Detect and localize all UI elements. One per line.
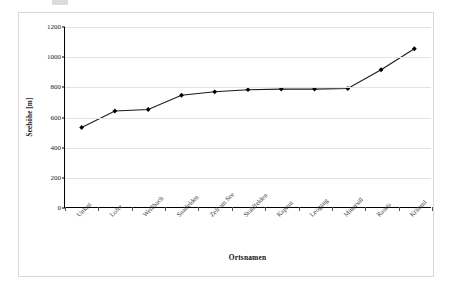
y-tick-mark	[62, 87, 65, 88]
plot-area: 020040060080010001200UnkenLoferWeißbachS…	[64, 27, 431, 208]
y-tick-mark	[62, 27, 65, 28]
y-gridline	[65, 178, 431, 179]
data-point-marker	[113, 109, 118, 114]
y-gridline	[65, 148, 431, 149]
data-point-marker	[179, 93, 184, 98]
y-tick-label: 600	[51, 114, 62, 122]
y-tick-mark	[62, 117, 65, 118]
data-point-marker	[212, 89, 217, 94]
x-tick-mark	[198, 207, 199, 211]
y-tick-label: 400	[51, 144, 62, 152]
y-gridline	[65, 57, 431, 58]
x-tick-mark	[98, 207, 99, 211]
y-gridline	[65, 118, 431, 119]
y-gridline	[65, 27, 431, 28]
x-tick-mark	[65, 207, 66, 211]
data-point-marker	[146, 107, 151, 112]
y-tick-label: 1200	[47, 23, 61, 31]
x-tick-mark	[232, 207, 233, 211]
y-gridline	[65, 87, 431, 88]
y-tick-mark	[62, 147, 65, 148]
y-tick-label: 0	[58, 204, 62, 212]
chart-frame: Seehöhe [m] 020040060080010001200UnkenLo…	[18, 12, 434, 277]
y-tick-label: 1000	[47, 53, 61, 61]
y-tick-mark	[62, 57, 65, 58]
x-tick-mark	[432, 207, 433, 211]
x-tick-mark	[165, 207, 166, 211]
x-tick-mark	[399, 207, 400, 211]
y-tick-label: 200	[51, 174, 62, 182]
plot-wrapper: Seehöhe [m] 020040060080010001200UnkenLo…	[19, 13, 433, 276]
x-tick-mark	[365, 207, 366, 211]
chart-page: { "page": { "background_color": "#ffffff…	[0, 0, 454, 288]
y-tick-label: 800	[51, 83, 62, 91]
x-tick-mark	[299, 207, 300, 211]
x-tick-mark	[332, 207, 333, 211]
x-axis-title: Ortsnamen	[64, 253, 431, 262]
y-tick-mark	[62, 177, 65, 178]
x-tick-mark	[132, 207, 133, 211]
cut-off-text-fragment	[52, 0, 68, 5]
y-axis-title: Seehöhe [m]	[26, 62, 34, 172]
data-point-marker	[79, 125, 84, 130]
x-tick-mark	[265, 207, 266, 211]
